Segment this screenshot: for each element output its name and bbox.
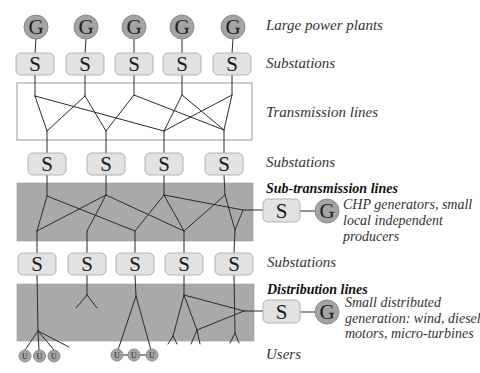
svg-text:S: S <box>178 252 190 276</box>
svg-text:S: S <box>29 52 41 76</box>
substation-node: S <box>28 152 66 176</box>
substation-node: S <box>66 52 104 76</box>
svg-text:U: U <box>22 352 28 361</box>
label-substations-1: Substations <box>266 55 335 71</box>
generator-node: G <box>122 15 146 39</box>
substation-node: S <box>68 252 106 276</box>
substations-row-3: S S S S S <box>18 252 253 276</box>
generator-node: G <box>74 15 98 39</box>
svg-text:G: G <box>174 15 189 39</box>
svg-text:S: S <box>158 152 170 176</box>
substations-row-1: S S S S S <box>16 52 251 76</box>
svg-text:S: S <box>276 199 288 223</box>
label-transmission-lines: Transmission lines <box>266 104 378 120</box>
label-substations-2: Substations <box>266 154 335 170</box>
chp-description-line-3: producers <box>342 229 400 244</box>
dg-description-line-2: generation: wind, diesel <box>345 311 480 326</box>
substation-node: S <box>263 199 300 223</box>
user-node: U <box>111 349 123 361</box>
substation-node: S <box>116 252 154 276</box>
users-row: U U U U U U <box>19 349 158 362</box>
substation-node: S <box>215 252 253 276</box>
dg-description-line-1: Small distributed <box>345 295 442 310</box>
generator-to-substation-links <box>35 39 233 53</box>
svg-text:G: G <box>78 15 93 39</box>
svg-text:G: G <box>319 199 334 223</box>
svg-text:S: S <box>276 300 288 324</box>
svg-text:U: U <box>131 351 137 360</box>
generator-node: G <box>315 199 339 223</box>
svg-text:S: S <box>218 152 230 176</box>
substation-node: S <box>115 52 153 76</box>
svg-text:S: S <box>228 252 240 276</box>
svg-text:G: G <box>225 15 240 39</box>
substation-node: S <box>165 252 203 276</box>
generator-node: G <box>24 15 48 39</box>
svg-text:U: U <box>37 352 43 361</box>
svg-text:S: S <box>41 152 53 176</box>
substation-node: S <box>87 152 125 176</box>
svg-text:S: S <box>226 52 238 76</box>
chp-description-line-2: local independent <box>343 213 444 228</box>
substations-row-2: S S S S <box>28 152 243 176</box>
svg-text:G: G <box>126 15 141 39</box>
generator-node: G <box>315 300 339 324</box>
substation-node: S <box>213 52 251 76</box>
svg-text:G: G <box>28 15 43 39</box>
svg-text:U: U <box>51 352 57 361</box>
chp-description-line-1: CHP generators, small <box>343 197 472 212</box>
dg-description-line-3: motors, micro-turbines <box>345 326 474 341</box>
substation-node: S <box>263 300 300 324</box>
substation-node: S <box>16 52 54 76</box>
user-node: U <box>128 349 140 361</box>
transmission-lines <box>35 75 232 153</box>
large-power-plants-row: G G G G G <box>24 15 245 39</box>
substation-node: S <box>163 52 201 76</box>
svg-text:S: S <box>100 152 112 176</box>
label-users: Users <box>266 346 301 362</box>
generator-node: G <box>221 15 245 39</box>
user-node: U <box>34 350 46 362</box>
svg-text:G: G <box>319 300 334 324</box>
label-large-power-plants: Large power plants <box>265 17 383 33</box>
substation-node: S <box>145 152 183 176</box>
substation-node: S <box>18 252 56 276</box>
svg-text:S: S <box>176 52 188 76</box>
substation-node: S <box>205 152 243 176</box>
label-sub-transmission-lines: Sub-transmission lines <box>266 181 398 196</box>
user-node: U <box>48 350 60 362</box>
svg-text:S: S <box>81 252 93 276</box>
svg-text:S: S <box>129 252 141 276</box>
user-node: U <box>19 350 31 362</box>
svg-text:S: S <box>79 52 91 76</box>
svg-text:U: U <box>114 351 120 360</box>
svg-text:S: S <box>31 252 43 276</box>
generator-node: G <box>170 15 194 39</box>
power-grid-diagram: G G G G G S S S S S S S S S S S S S S S … <box>0 0 480 373</box>
svg-text:S: S <box>128 52 140 76</box>
user-node: U <box>146 349 158 361</box>
label-substations-3: Substations <box>267 254 336 270</box>
svg-text:U: U <box>149 351 155 360</box>
